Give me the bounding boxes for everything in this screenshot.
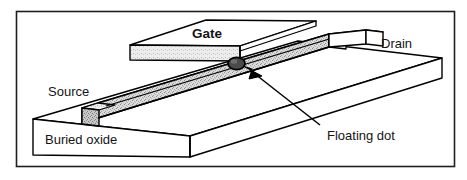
channel-source-left-face xyxy=(82,108,99,126)
schematic-svg: Gate Drain Source Buried oxide Floating … xyxy=(0,0,467,180)
label-floating-dot: Floating dot xyxy=(327,128,395,143)
label-drain: Drain xyxy=(381,36,412,51)
figure-root: Gate Drain Source Buried oxide Floating … xyxy=(0,0,467,180)
gate-front-face xyxy=(130,45,240,61)
label-buried-oxide: Buried oxide xyxy=(45,132,117,147)
floating-dot-highlight xyxy=(231,59,237,63)
floating-dot xyxy=(228,57,245,69)
floating-dot-shape xyxy=(228,57,245,69)
drain-pad xyxy=(329,30,383,47)
label-source: Source xyxy=(48,84,89,99)
label-gate: Gate xyxy=(192,26,223,41)
